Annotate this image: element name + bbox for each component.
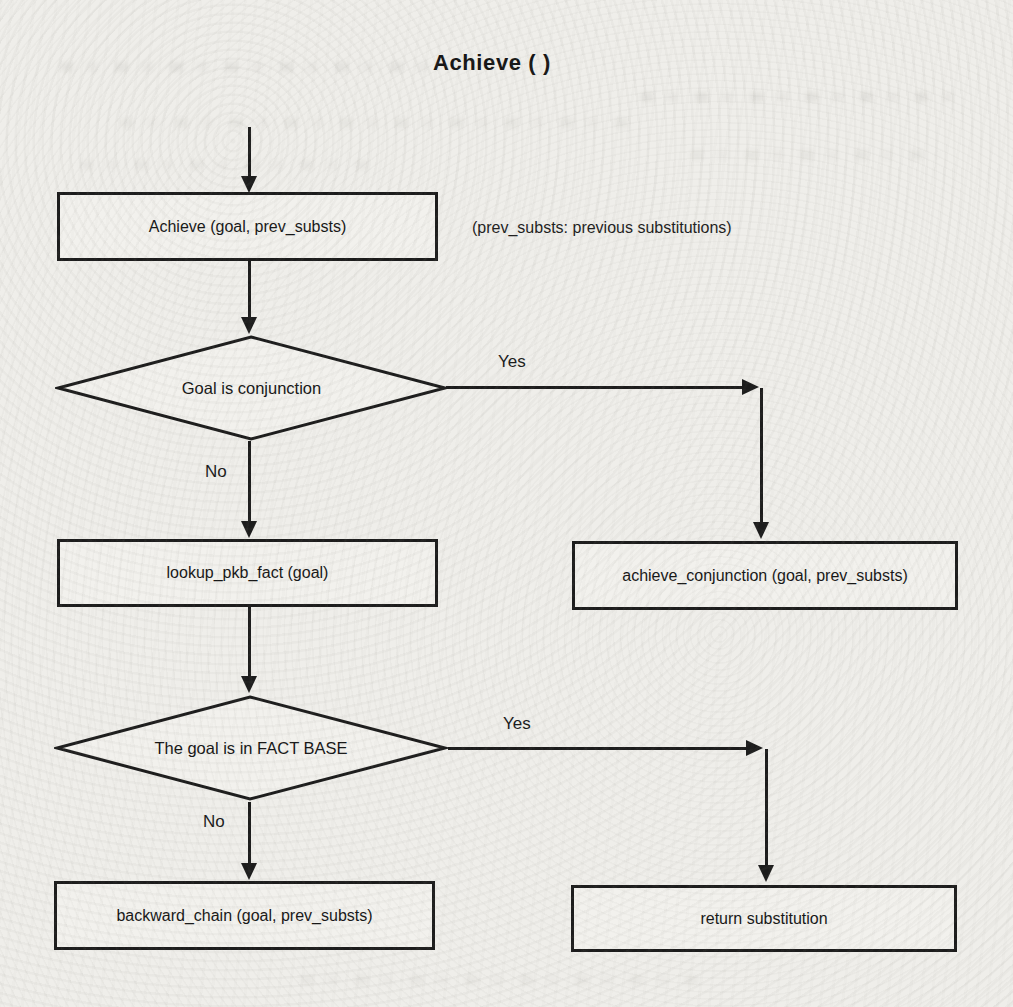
flowchart-title: Achieve ( ): [433, 50, 551, 76]
scan-smudge: [120, 118, 640, 128]
process-box-achieve-label: Achieve (goal, prev_substs): [149, 218, 346, 236]
edge-factbase-yes-vline: [765, 749, 768, 866]
prev-substs-annotation: (prev_substs: previous substitutions): [472, 219, 732, 237]
edge-label-factbase-no: No: [203, 812, 225, 832]
decision-goal-is-conjunction-label: Goal is conjunction: [55, 334, 448, 442]
arrowhead-down-icon: [241, 863, 257, 880]
scan-smudge: [80, 160, 380, 170]
edge-conjunction-yes-vline: [760, 388, 763, 523]
arrowhead-down-icon: [241, 676, 257, 693]
process-box-return-substitution: return substitution: [571, 885, 957, 952]
arrowhead-down-icon: [241, 317, 257, 334]
process-box-lookup-pkb-fact: lookup_pkb_fact (goal): [57, 539, 438, 607]
decision-goal-in-fact-base: The goal is in FACT BASE: [54, 694, 448, 802]
arrowhead-right-icon: [746, 740, 763, 756]
process-box-achieve: Achieve (goal, prev_substs): [57, 192, 438, 261]
scan-smudge: [640, 92, 970, 102]
process-box-lookup-pkb-fact-label: lookup_pkb_fact (goal): [167, 564, 329, 582]
scan-smudge: [300, 975, 700, 985]
edge-lookup-to-factbase-line: [248, 607, 251, 677]
edge-factbase-no-line: [248, 802, 251, 864]
edge-start-line: [248, 127, 251, 177]
arrowhead-down-icon: [753, 522, 769, 539]
scan-smudge: [690, 150, 940, 160]
decision-goal-is-conjunction: Goal is conjunction: [55, 334, 448, 442]
process-box-achieve-conjunction-label: achieve_conjunction (goal, prev_substs): [622, 567, 908, 585]
process-box-return-substitution-label: return substitution: [700, 910, 827, 928]
edge-factbase-yes-hline: [448, 747, 747, 750]
edge-conjunction-no-line: [248, 441, 251, 522]
edge-label-factbase-yes: Yes: [503, 714, 531, 734]
arrowhead-down-icon: [241, 176, 257, 193]
arrowhead-down-icon: [758, 865, 774, 882]
process-box-achieve-conjunction: achieve_conjunction (goal, prev_substs): [572, 541, 958, 610]
edge-conjunction-yes-hline: [446, 386, 743, 389]
edge-achieve-to-conjunction-line: [248, 261, 251, 318]
edge-label-conjunction-yes: Yes: [498, 352, 526, 372]
scanned-flowchart-page: Achieve ( ) Achieve (goal, prev_substs) …: [0, 0, 1013, 1007]
process-box-backward-chain: backward_chain (goal, prev_substs): [54, 881, 435, 950]
edge-label-conjunction-no: No: [205, 462, 227, 482]
process-box-backward-chain-label: backward_chain (goal, prev_substs): [116, 907, 372, 925]
arrowhead-right-icon: [742, 379, 759, 395]
arrowhead-down-icon: [241, 521, 257, 538]
decision-goal-in-fact-base-label: The goal is in FACT BASE: [54, 694, 448, 802]
scan-smudge: [60, 62, 440, 72]
